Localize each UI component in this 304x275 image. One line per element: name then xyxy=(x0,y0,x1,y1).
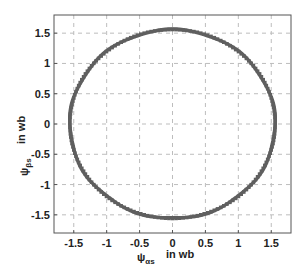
trace-marker xyxy=(76,87,80,91)
x-axis-symbol: ψαs xyxy=(137,251,155,266)
trace-marker xyxy=(129,209,133,213)
trace-marker xyxy=(267,155,271,159)
trace-marker xyxy=(199,31,203,35)
trace-marker xyxy=(185,216,189,220)
trace-marker xyxy=(174,217,178,221)
trace-marker xyxy=(225,42,229,46)
x-tick-label: 0.5 xyxy=(198,237,213,249)
grid-lines xyxy=(54,15,291,233)
trace-marker xyxy=(123,206,127,210)
trace-marker xyxy=(129,36,133,40)
trace-marker xyxy=(189,29,193,33)
y-tick-label: -1.5 xyxy=(31,209,50,221)
x-tick-label: -1.5 xyxy=(64,237,83,249)
trace-marker xyxy=(160,28,164,32)
flux-circle-chart: -1.5-1-0.500.511.5 -1.5-1-0.500.511.5 ψα… xyxy=(0,0,304,275)
trace-marker xyxy=(70,142,74,146)
trace-marker xyxy=(139,212,143,216)
trace-marker xyxy=(153,215,157,219)
trace-marker xyxy=(69,109,73,113)
trace-marker xyxy=(273,129,277,133)
trace-marker xyxy=(167,217,171,221)
trace-marker xyxy=(123,39,127,43)
trace-marker xyxy=(74,90,78,94)
trace-marker xyxy=(153,29,157,33)
trace-marker xyxy=(219,39,223,43)
trace-marker xyxy=(156,216,160,220)
trace-marker xyxy=(68,122,72,126)
trace-marker xyxy=(178,28,182,32)
trace-marker xyxy=(181,216,185,220)
trace-marker xyxy=(216,37,220,41)
trace-marker xyxy=(213,36,217,40)
y-axis-symbol: ψβs xyxy=(18,158,33,176)
y-tick-label: 0 xyxy=(44,118,50,130)
trace-marker xyxy=(171,28,175,32)
trace-marker xyxy=(199,213,203,217)
y-tick-label: 0.5 xyxy=(35,88,50,100)
trace-marker xyxy=(70,139,74,143)
trace-marker xyxy=(271,103,275,107)
trace-marker xyxy=(146,31,150,35)
trace-marker xyxy=(273,126,277,130)
trace-marker xyxy=(69,135,73,139)
trace-marker xyxy=(196,214,200,218)
trace-marker xyxy=(273,112,277,116)
y-tick-labels: -1.5-1-0.500.511.5 xyxy=(31,27,57,221)
trace-marker xyxy=(219,206,223,210)
trace-marker xyxy=(126,207,130,211)
trace-marker xyxy=(209,35,213,39)
trace-marker xyxy=(69,112,73,116)
trace-marker xyxy=(68,126,72,130)
trace-marker xyxy=(126,37,130,41)
trace-marker xyxy=(71,99,75,103)
trace-marker xyxy=(160,216,164,220)
trace-marker xyxy=(213,209,217,213)
trace-marker xyxy=(164,28,168,32)
trace-marker xyxy=(222,40,226,44)
trace-marker xyxy=(171,217,175,221)
y-axis-unit: in wb xyxy=(15,116,27,144)
y-tick-label: 1.5 xyxy=(35,27,50,39)
trace-marker xyxy=(216,207,220,211)
trace-marker xyxy=(272,109,276,113)
trace-marker xyxy=(268,151,272,155)
trace-marker xyxy=(178,216,182,220)
trace-marker xyxy=(196,31,200,35)
trace-marker xyxy=(74,155,78,159)
trace-marker xyxy=(209,210,213,214)
trace-marker xyxy=(70,106,74,110)
trace-marker xyxy=(222,204,226,208)
y-axis-label: ψβs in wb xyxy=(15,116,33,176)
trace-marker xyxy=(269,96,273,100)
trace-marker xyxy=(270,99,274,103)
trace-marker xyxy=(192,30,196,34)
x-axis-unit: in wb xyxy=(166,248,194,260)
trace-marker xyxy=(68,116,72,120)
trace-marker xyxy=(73,151,77,155)
x-tick-label: -1 xyxy=(102,237,112,249)
trace-marker xyxy=(164,216,168,220)
trace-marker xyxy=(273,122,277,126)
trace-marker xyxy=(70,103,74,107)
trace-marker xyxy=(132,210,136,214)
trace-marker xyxy=(267,90,271,94)
trace-marker xyxy=(266,158,270,162)
trace-marker xyxy=(174,28,178,32)
trace-marker xyxy=(272,139,276,143)
trace-marker xyxy=(139,32,143,36)
y-tick-label: -1 xyxy=(40,179,50,191)
trace-marker xyxy=(202,32,206,36)
x-tick-label: 1 xyxy=(235,237,241,249)
trace-marker xyxy=(146,214,150,218)
x-tick-label: 1.5 xyxy=(264,237,279,249)
trace-marker xyxy=(119,204,123,208)
trace-marker xyxy=(69,132,73,136)
trace-marker xyxy=(206,33,210,37)
trace-marker xyxy=(272,106,276,110)
trace-marker xyxy=(149,215,153,219)
trace-marker xyxy=(268,93,272,97)
trace-marker xyxy=(73,93,77,97)
trace-marker xyxy=(156,29,160,33)
trace-marker xyxy=(142,31,146,35)
